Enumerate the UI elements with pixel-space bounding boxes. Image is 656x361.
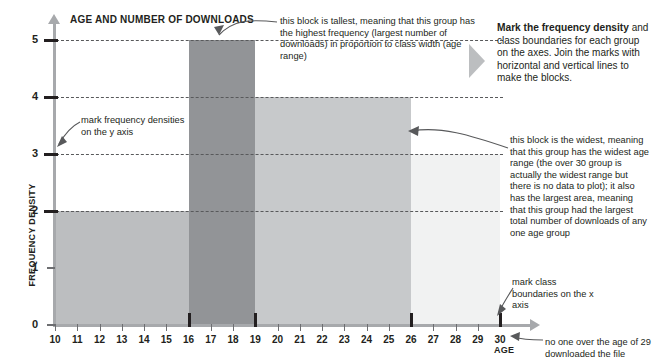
y-tick-4	[44, 96, 58, 99]
x-axis-line-right	[228, 324, 533, 327]
annotation-y-axis-marks: mark frequency densities on the y axis	[81, 115, 191, 138]
y-tick-5	[44, 39, 58, 42]
y-tick-label-4: 4	[20, 90, 38, 102]
x-tick-label-11: 11	[67, 334, 87, 345]
gridline-3	[56, 154, 503, 155]
annotation-widest-block: this block is the widest, meaning that t…	[510, 135, 650, 239]
x-tick-label-22: 22	[312, 334, 332, 345]
x-tick-25	[389, 324, 390, 331]
x-tick-label-12: 12	[90, 334, 110, 345]
y-tick-label-0: 0	[20, 318, 38, 330]
x-tick-15	[166, 324, 167, 331]
histogram-bar-16-19	[189, 40, 256, 325]
x-tick-18	[233, 324, 234, 331]
x-tick-13	[122, 324, 123, 331]
y-tick-3	[44, 153, 58, 156]
x-tick-24	[367, 324, 368, 331]
gridline-2	[56, 211, 503, 212]
x-tick-label-14: 14	[134, 334, 154, 345]
x-tick-label-23: 23	[334, 334, 354, 345]
x-tick-16	[188, 313, 191, 327]
annotation-class-boundaries: mark class boundaries on the x axis	[512, 277, 602, 312]
x-tick-27	[433, 324, 434, 331]
annotation-no-one-over-29: no one over the age of 29 downloaded the…	[545, 337, 655, 360]
x-tick-label-15: 15	[156, 334, 176, 345]
y-axis-arrow-icon	[48, 14, 60, 24]
x-tick-label-10: 10	[45, 334, 65, 345]
chart-title: AGE AND NUMBER OF DOWNLOADS	[70, 14, 254, 25]
x-tick-label-13: 13	[112, 334, 132, 345]
x-tick-26	[410, 313, 413, 327]
y-tick-1	[47, 267, 55, 269]
x-tick-label-30: 30	[490, 334, 510, 345]
histogram-bar-26-30	[411, 154, 500, 325]
x-axis-arrow-icon	[530, 319, 540, 331]
gridline-4	[56, 97, 503, 98]
infographic-canvas: 012345 101112131415161718192021222324252…	[0, 0, 656, 361]
y-tick-0	[47, 324, 55, 326]
x-tick-17	[211, 324, 212, 331]
x-tick-label-27: 27	[423, 334, 443, 345]
x-tick-label-18: 18	[223, 334, 243, 345]
y-axis-line	[53, 22, 56, 327]
x-tick-20	[278, 324, 279, 331]
x-tick-label-29: 29	[468, 334, 488, 345]
annotation-tallest-block: this block is tallest, meaning that this…	[280, 16, 490, 62]
x-tick-label-20: 20	[268, 334, 288, 345]
x-axis-title: AGE	[494, 345, 514, 355]
x-tick-28	[456, 324, 457, 331]
x-tick-label-21: 21	[290, 334, 310, 345]
histogram-bar-10-16	[55, 211, 189, 325]
x-tick-14	[144, 324, 145, 331]
x-tick-22	[322, 324, 323, 331]
callout-arrow-icon	[469, 44, 485, 78]
x-tick-label-17: 17	[201, 334, 221, 345]
x-tick-label-28: 28	[446, 334, 466, 345]
y-tick-label-5: 5	[20, 33, 38, 45]
x-tick-29	[478, 324, 479, 331]
x-tick-10	[55, 324, 56, 331]
x-tick-label-25: 25	[379, 334, 399, 345]
y-tick-2	[44, 210, 58, 213]
x-tick-21	[300, 324, 301, 331]
x-axis-line	[53, 324, 228, 327]
x-tick-12	[100, 324, 101, 331]
x-tick-label-16: 16	[179, 334, 199, 345]
x-tick-23	[344, 324, 345, 331]
x-tick-label-26: 26	[401, 334, 421, 345]
y-tick-label-3: 3	[20, 147, 38, 159]
callout-instruction: Mark the frequency density and class bou…	[497, 22, 652, 85]
callout-bold-lead: Mark the frequency density	[497, 22, 629, 33]
x-tick-30	[499, 313, 502, 327]
y-axis-title: FREQUENCY DENSITY	[27, 175, 37, 295]
x-tick-11	[77, 324, 78, 331]
x-tick-label-24: 24	[357, 334, 377, 345]
x-tick-19	[254, 313, 257, 327]
x-tick-label-19: 19	[245, 334, 265, 345]
